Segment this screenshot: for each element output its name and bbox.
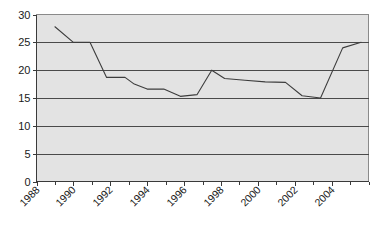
line-chart: 051015202530 198819901992199419961998200… xyxy=(0,0,386,227)
x-tick-label-1994: 1994 xyxy=(127,183,152,208)
y-axis-ticks xyxy=(33,16,37,183)
y-tick-label-30: 30 xyxy=(18,9,30,21)
y-axis-labels: 051015202530 xyxy=(18,9,30,188)
y-tick-label-5: 5 xyxy=(24,148,30,160)
x-tick-label-1998: 1998 xyxy=(201,183,226,208)
y-tick-label-20: 20 xyxy=(18,64,30,76)
x-tick-label-1990: 1990 xyxy=(53,183,78,208)
x-tick-label-2000: 2000 xyxy=(238,183,263,208)
y-tick-label-10: 10 xyxy=(18,120,30,132)
x-axis-ticks xyxy=(38,182,370,186)
x-tick-label-1992: 1992 xyxy=(90,183,115,208)
chart-canvas: 051015202530 198819901992199419961998200… xyxy=(0,0,386,227)
y-tick-label-25: 25 xyxy=(18,36,30,48)
x-tick-label-1988: 1988 xyxy=(17,183,42,208)
x-axis-labels: 198819901992199419961998200020022004 xyxy=(17,183,337,208)
y-tick-label-15: 15 xyxy=(18,92,30,104)
x-tick-label-2002: 2002 xyxy=(275,183,300,208)
x-tick-label-1996: 1996 xyxy=(164,183,189,208)
x-tick-label-2004: 2004 xyxy=(312,183,337,208)
